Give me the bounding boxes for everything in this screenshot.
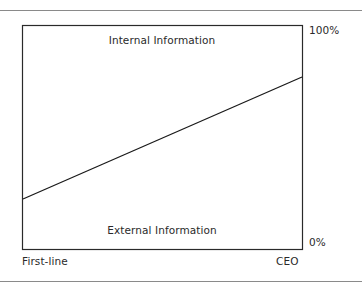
y-tick-100: 100% (309, 24, 339, 36)
x-label-ceo: CEO (276, 255, 299, 267)
boundary-line (23, 77, 302, 199)
x-label-first-line: First-line (22, 255, 68, 267)
bottom-rule (0, 281, 362, 282)
y-tick-0: 0% (309, 236, 326, 248)
internal-information-label: Internal Information (22, 34, 302, 46)
external-information-label: External Information (22, 224, 302, 236)
